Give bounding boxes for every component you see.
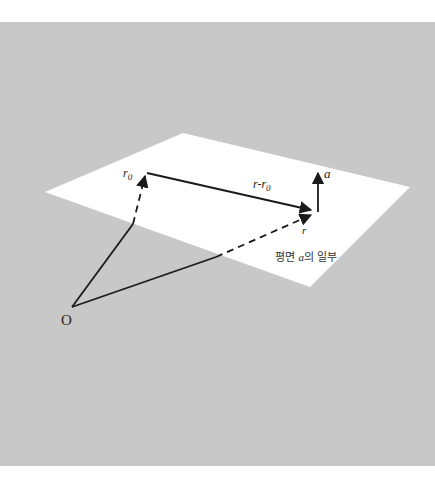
r-label: r: [302, 224, 307, 236]
plane-caption: 평면 a의 일부: [275, 250, 338, 264]
diagram-canvas: O r0 r-r0 a r 평면 a의 일부: [0, 0, 435, 500]
vector-plane-diagram: O r0 r-r0 a r 평면 a의 일부: [0, 0, 435, 500]
diff-label-sub: 0: [266, 183, 271, 193]
r0-label-sub: 0: [128, 172, 133, 182]
normal-a-label: a: [324, 166, 331, 181]
origin-label: O: [61, 312, 72, 328]
plane-caption-suffix: 의 일부: [304, 250, 338, 264]
plane-caption-prefix: 평면: [275, 251, 299, 264]
diff-label-main: r-r: [253, 177, 266, 191]
